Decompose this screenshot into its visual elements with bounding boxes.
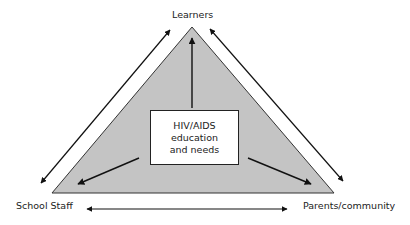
center-box: HIV/AIDS education and needs	[150, 110, 239, 165]
center-line-2: education	[171, 132, 218, 144]
node-parents-community: Parents/community	[303, 200, 395, 211]
node-school-staff: School Staff	[16, 200, 73, 211]
center-line-3: and needs	[170, 144, 220, 156]
node-learners: Learners	[172, 9, 213, 20]
center-line-1: HIV/AIDS	[173, 120, 215, 132]
